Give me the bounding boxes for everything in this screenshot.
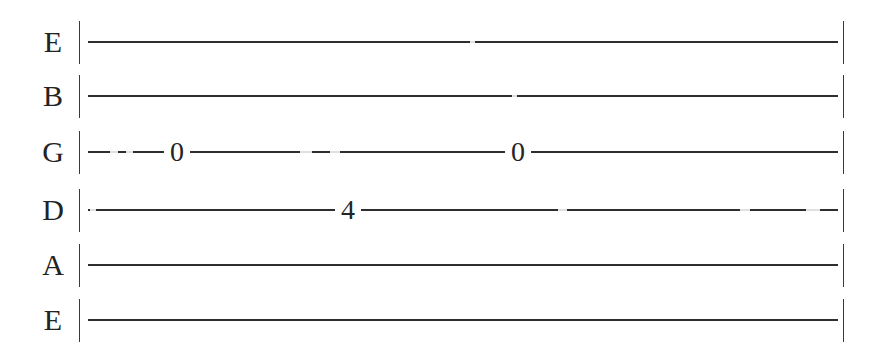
string-line-d-string: [88, 209, 838, 211]
fret-number[interactable]: 0: [164, 132, 190, 172]
scan-gap: [740, 208, 750, 212]
right-barline-b-string: [843, 75, 844, 118]
left-barline-d-string: [79, 189, 80, 232]
scan-gap: [90, 208, 96, 212]
right-barline-a-string: [843, 244, 844, 287]
scan-gap: [126, 150, 133, 154]
scan-gap: [558, 208, 567, 212]
fret-number[interactable]: 4: [335, 190, 361, 230]
right-barline-high-e-string: [843, 21, 844, 64]
string-line-g-string: [88, 151, 838, 153]
scan-gap: [110, 150, 118, 154]
string-label-low-e-string: E: [36, 298, 70, 342]
scan-gap: [806, 208, 820, 212]
scan-gap: [470, 40, 475, 44]
fret-number[interactable]: 0: [505, 132, 531, 172]
right-barline-low-e-string: [843, 299, 844, 342]
string-label-d-string: D: [36, 188, 70, 232]
string-label-b-string: B: [36, 74, 70, 118]
string-line-high-e-string: [88, 41, 838, 43]
left-barline-low-e-string: [79, 299, 80, 342]
left-barline-b-string: [79, 75, 80, 118]
right-barline-g-string: [843, 131, 844, 174]
string-line-b-string: [88, 95, 838, 97]
string-label-high-e-string: E: [36, 20, 70, 64]
right-barline-d-string: [843, 189, 844, 232]
string-line-a-string: [88, 264, 838, 266]
tablature-sheet: EBG00D4AE: [0, 0, 885, 357]
left-barline-g-string: [79, 131, 80, 174]
scan-gap: [512, 94, 517, 98]
left-barline-high-e-string: [79, 21, 80, 64]
scan-gap: [300, 150, 312, 154]
string-label-a-string: A: [36, 243, 70, 287]
scan-gap: [330, 150, 340, 154]
string-line-low-e-string: [88, 319, 838, 321]
left-barline-a-string: [79, 244, 80, 287]
string-label-g-string: G: [36, 130, 70, 174]
